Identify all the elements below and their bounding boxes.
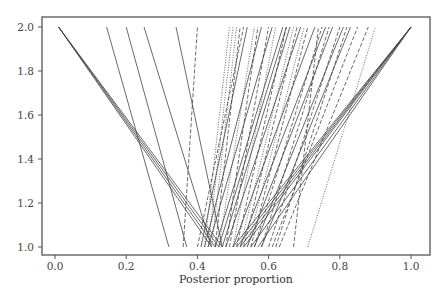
data-segment xyxy=(276,27,347,247)
x-tick-label: 0.8 xyxy=(331,260,348,272)
data-segment xyxy=(258,27,411,247)
y-tick-label: 1.2 xyxy=(17,197,34,209)
data-segment xyxy=(237,27,287,247)
data-segment xyxy=(240,27,293,247)
data-segment xyxy=(269,27,340,247)
x-tick-label: 0.6 xyxy=(260,260,277,272)
y-tick-label: 1.4 xyxy=(17,153,34,165)
data-segment xyxy=(308,27,376,247)
x-tick-label: 1.0 xyxy=(403,260,420,272)
data-segment xyxy=(107,27,169,247)
x-tick-label: 0.2 xyxy=(118,260,135,272)
x-axis: 0.00.20.40.60.81.0 xyxy=(47,255,420,272)
data-segment xyxy=(215,27,240,247)
data-segment xyxy=(59,27,223,247)
y-tick-label: 2.0 xyxy=(17,21,34,33)
data-segment xyxy=(233,27,315,247)
y-tick-label: 1.6 xyxy=(17,109,34,121)
y-tick-label: 1.0 xyxy=(17,241,34,253)
x-tick-label: 0.0 xyxy=(47,260,64,272)
plot-frame xyxy=(42,17,430,255)
y-axis: 1.01.21.41.61.82.0 xyxy=(17,21,42,253)
data-segment xyxy=(59,27,216,247)
data-segment xyxy=(59,27,219,247)
data-segment xyxy=(254,27,322,247)
data-segment xyxy=(226,27,301,247)
data-segment xyxy=(183,27,197,247)
data-segment xyxy=(247,27,332,247)
data-segments xyxy=(59,27,411,247)
data-segment xyxy=(240,27,411,247)
x-tick-label: 0.4 xyxy=(189,260,206,272)
data-segment xyxy=(233,27,276,247)
x-axis-title: Posterior proportion xyxy=(179,273,293,286)
data-segment xyxy=(244,27,411,247)
y-tick-label: 1.8 xyxy=(17,65,34,77)
chart-canvas: 1.01.21.41.61.82.0 0.00.20.40.60.81.0 Po… xyxy=(0,0,440,301)
